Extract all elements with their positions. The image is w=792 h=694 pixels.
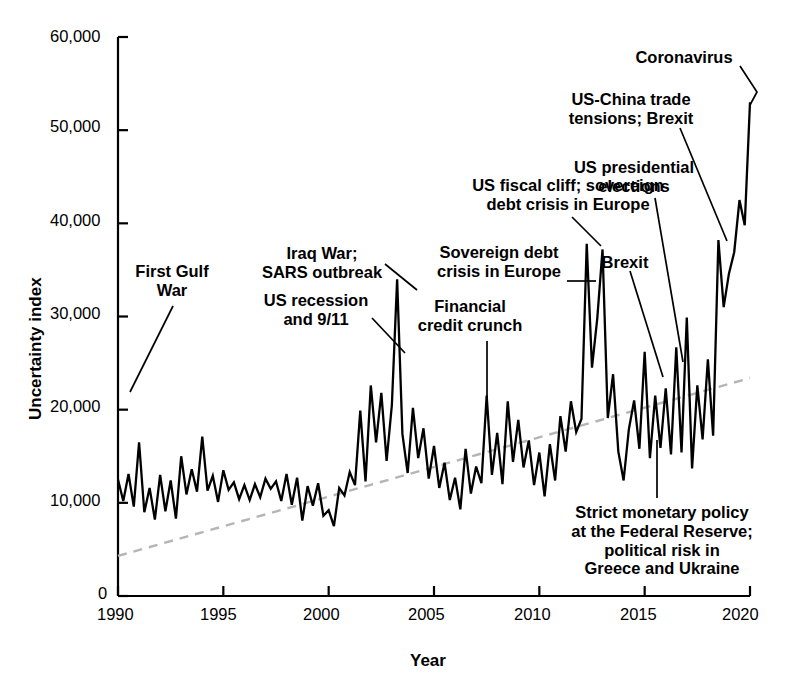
annotation-line: First Gulf xyxy=(135,262,208,281)
annotation-line: debt crisis in Europe xyxy=(472,195,664,214)
leader-us-presidential-elections xyxy=(655,198,683,362)
annotation-line: Iraq War; xyxy=(262,244,382,263)
annotation-coronavirus: Coronavirus xyxy=(635,48,732,67)
annotation-us-recession-911: US recessionand 9/11 xyxy=(264,291,369,329)
annotation-line: Brexit xyxy=(602,253,649,272)
annotation-iraq-war-sars: Iraq War;SARS outbreak xyxy=(262,244,382,282)
annotation-financial-credit-crunch: Financialcredit crunch xyxy=(418,297,523,335)
annotation-line: Greece and Ukraine xyxy=(571,559,753,578)
annotation-line: Financial xyxy=(418,297,523,316)
annotation-line: Coronavirus xyxy=(635,48,732,67)
annotation-us-china-trade-brexit: US-China tradetensions; Brexit xyxy=(569,90,694,128)
annotation-line: credit crunch xyxy=(418,316,523,335)
annotation-first-gulf-war: First GulfWar xyxy=(135,262,208,300)
uncertainty-index-chart: Uncertainty index Year 60,000 50,000 40,… xyxy=(0,0,792,694)
annotation-line: and 9/11 xyxy=(264,310,369,329)
annotation-line: political risk in xyxy=(571,541,753,560)
annotation-leader-lines xyxy=(130,66,757,498)
annotation-line: US presidential xyxy=(574,158,694,177)
annotation-line: War xyxy=(135,281,208,300)
leader-brexit-2016 xyxy=(630,271,663,377)
annotation-line: US-China trade xyxy=(569,90,694,109)
annotation-strict-monetary-policy: Strict monetary policyat the Federal Res… xyxy=(571,503,753,578)
annotation-us-presidential-elections: US presidentialelections xyxy=(574,158,694,196)
leader-us-fiscal-cliff xyxy=(572,217,601,246)
annotation-line: SARS outbreak xyxy=(262,263,382,282)
leader-first-gulf-war xyxy=(130,306,173,392)
annotation-line: Sovereign debt xyxy=(437,243,561,262)
annotation-line: elections xyxy=(574,177,694,196)
leader-iraq-war-sars xyxy=(385,264,417,290)
leader-coronavirus xyxy=(740,66,757,105)
annotation-line: crisis in Europe xyxy=(437,262,561,281)
annotation-brexit-2016: Brexit xyxy=(602,253,649,272)
annotation-line: US recession xyxy=(264,291,369,310)
annotation-sovereign-debt-crisis: Sovereign debtcrisis in Europe xyxy=(437,243,561,281)
annotation-line: Strict monetary policy xyxy=(571,503,753,522)
annotation-line: tensions; Brexit xyxy=(569,109,694,128)
annotation-line: at the Federal Reserve; xyxy=(571,522,753,541)
